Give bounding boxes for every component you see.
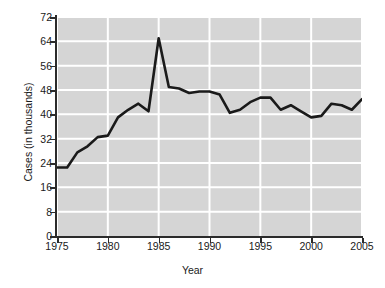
y-tickmark: [50, 66, 55, 68]
gridlines: [57, 17, 362, 236]
x-tickmark: [260, 238, 262, 243]
y-tickmark: [50, 90, 55, 92]
x-tickmark: [362, 238, 364, 243]
y-tickmark: [50, 139, 55, 141]
y-tickmark: [50, 212, 55, 214]
x-axis-title: Year: [0, 264, 385, 276]
plot-svg: [57, 17, 362, 236]
x-tickmark: [57, 238, 59, 243]
x-tickmark: [108, 238, 110, 243]
y-axis-line: [55, 15, 57, 238]
x-tickmark: [311, 238, 313, 243]
y-tickmark: [50, 17, 55, 19]
y-tick-label: 64: [26, 36, 52, 46]
x-tickmark: [210, 238, 212, 243]
y-tickmark: [50, 163, 55, 165]
y-tickmark: [50, 41, 55, 43]
y-tickmark: [50, 187, 55, 189]
plot-area: [57, 17, 362, 236]
y-axis-title: Cases (in thousands): [22, 47, 34, 217]
y-tick-label: 72: [26, 12, 52, 22]
line-chart: 081624324048566472 197519801985199019952…: [0, 0, 385, 288]
x-tickmark: [159, 238, 161, 243]
y-tickmark: [50, 236, 55, 238]
y-tickmark: [50, 114, 55, 116]
